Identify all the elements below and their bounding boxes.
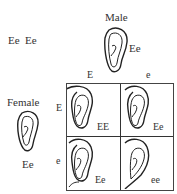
female-allele-e: e <box>56 155 60 167</box>
cell-EE: EE <box>67 84 120 136</box>
cell-genotype: Ee <box>95 174 106 185</box>
male-ear-icon <box>101 26 131 76</box>
cell-genotype: ee <box>151 174 160 185</box>
cell-genotype: EE <box>97 121 109 132</box>
male-genotype: Ee <box>129 42 141 54</box>
parents-genotypes: Ee Ee <box>8 34 37 46</box>
female-allele-E: E <box>56 102 62 114</box>
male-label: Male <box>105 11 128 23</box>
cell-Ee-top: Ee <box>121 84 174 136</box>
female-ear-icon <box>15 110 41 154</box>
male-allele-e: e <box>146 69 150 81</box>
free-earlobe-icon <box>121 84 174 136</box>
free-earlobe-icon <box>67 84 120 136</box>
cell-ee: ee <box>121 137 174 189</box>
attached-earlobe-icon <box>121 137 174 189</box>
female-genotype: Ee <box>22 158 34 170</box>
free-earlobe-icon <box>67 137 120 189</box>
male-allele-E: E <box>87 69 93 81</box>
cell-Ee-bottom: Ee <box>67 137 120 189</box>
cell-genotype: Ee <box>153 121 164 132</box>
punnett-square: EE Ee Ee ee <box>66 83 174 191</box>
female-label: Female <box>7 96 39 108</box>
